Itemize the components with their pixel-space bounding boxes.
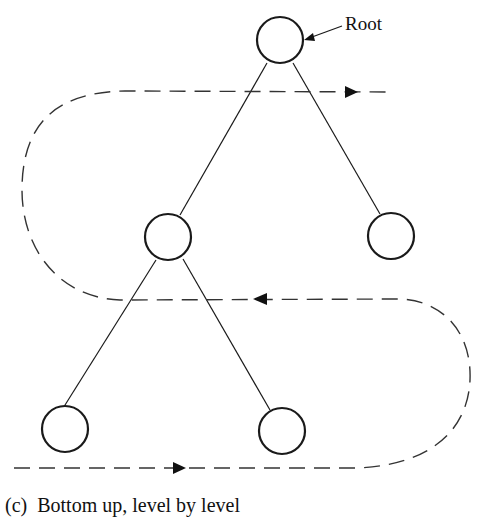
edge-left-leftright [183, 259, 270, 410]
root-pointer-arrowhead-icon [304, 33, 315, 41]
arrow-right-icon [345, 86, 358, 98]
root-node [257, 17, 303, 63]
left-right-grandchild-node [259, 408, 305, 454]
tree-traversal-diagram: Root (c) Bottom up, level by level [0, 0, 479, 524]
arrow-right-icon [173, 462, 186, 474]
edge-left-leftleft [60, 260, 156, 413]
left-left-grandchild-node [42, 406, 88, 452]
root-pointer-line [312, 26, 342, 37]
edge-root-left [180, 63, 267, 215]
right-child-node [368, 213, 414, 259]
arrow-left-icon [253, 293, 267, 305]
figure-caption: (c) Bottom up, level by level [5, 494, 240, 517]
traversal-path [14, 91, 470, 468]
edge-root-right [293, 63, 380, 214]
left-child-node [145, 214, 191, 260]
root-label: Root [345, 13, 383, 34]
